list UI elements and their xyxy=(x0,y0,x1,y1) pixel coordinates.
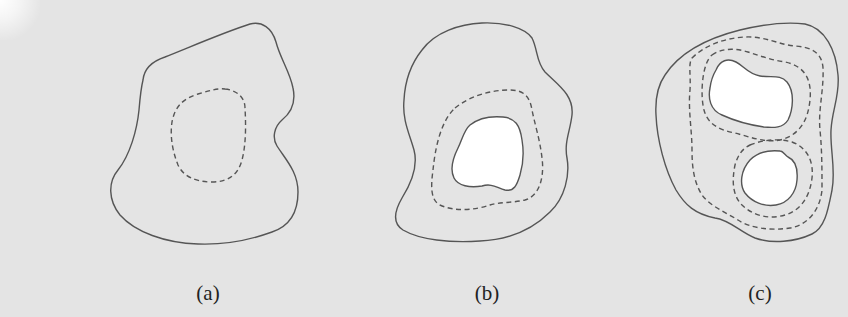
panel-c-shape xyxy=(656,23,839,241)
panel-b-label: (b) xyxy=(475,281,500,306)
panel-a-shape xyxy=(111,23,298,244)
panel-b-hole xyxy=(452,117,523,191)
panel-a-label: (a) xyxy=(196,281,219,306)
panel-c-outer-boundary xyxy=(656,23,839,241)
panel-c-hole-1 xyxy=(709,60,792,127)
diagram-canvas xyxy=(0,0,848,317)
panel-c-label: (c) xyxy=(748,281,771,306)
panel-a-outer-boundary xyxy=(111,23,298,244)
panel-b-shape xyxy=(396,23,572,242)
figure: (a) (b) (c) xyxy=(0,0,848,317)
panel-c-hole-2 xyxy=(742,151,798,206)
panel-a-dashed-contour xyxy=(171,89,245,182)
